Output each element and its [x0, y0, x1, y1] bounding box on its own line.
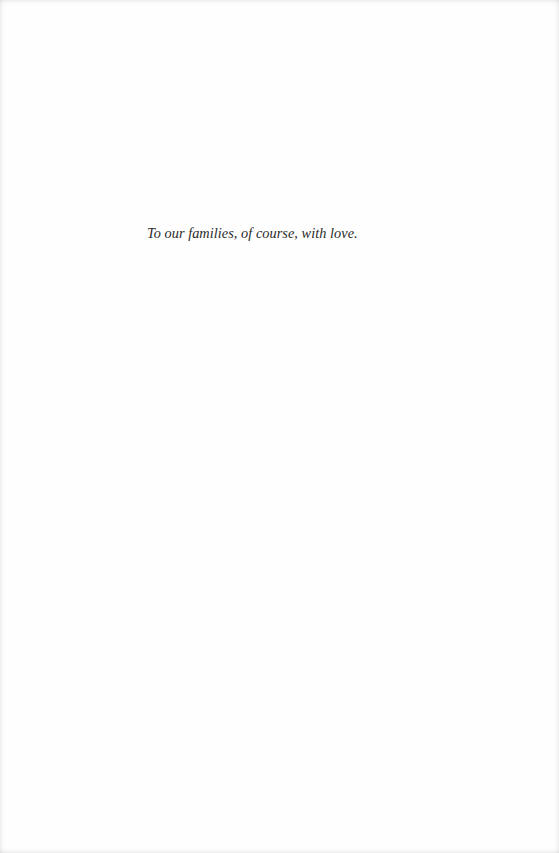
book-page: To our families, of course, with love.	[0, 0, 559, 853]
dedication-text: To our families, of course, with love.	[147, 224, 358, 242]
